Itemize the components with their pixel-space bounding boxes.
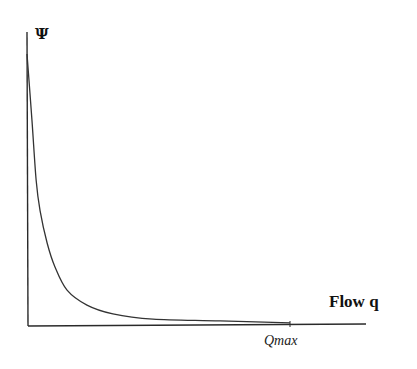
series-line <box>27 54 290 323</box>
y-axis <box>27 32 28 326</box>
x-axis <box>28 324 366 326</box>
chart: Qmax Ψ Flow q <box>0 0 417 369</box>
x-tick-label: Qmax <box>264 333 298 348</box>
x-axis-label: Flow q <box>329 292 379 311</box>
y-axis-label: Ψ <box>35 25 49 43</box>
